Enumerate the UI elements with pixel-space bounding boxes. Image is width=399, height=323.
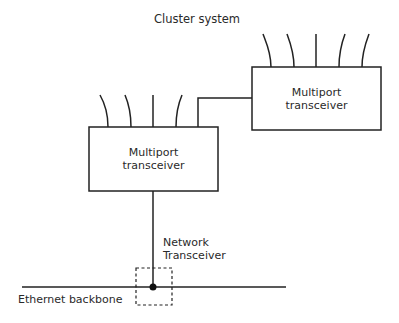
node-label-line1: Multiport <box>252 86 381 99</box>
node-label-line2: Transceiver <box>163 249 226 262</box>
ethernet-backbone-label: Ethernet backbone <box>18 293 122 306</box>
network-transceiver-label: Network Transceiver <box>163 236 226 262</box>
node-label-line2: transceiver <box>89 159 218 172</box>
node-label-line2: transceiver <box>252 99 381 112</box>
diagram-title: Cluster system <box>147 13 247 26</box>
antenna-line <box>100 95 108 127</box>
antenna-line <box>362 34 369 67</box>
node-label-line1: Multiport <box>89 146 218 159</box>
antenna-line <box>263 34 271 67</box>
antenna-line <box>176 95 182 127</box>
antenna-line <box>287 34 294 67</box>
multiport-transceiver-left-label: Multiport transceiver <box>89 146 218 172</box>
antenna-line <box>339 34 345 67</box>
node-label-line1: Network <box>163 236 226 249</box>
antenna-line <box>125 95 131 127</box>
tap-junction-dot <box>150 284 157 291</box>
inter-transceiver-link <box>198 98 252 127</box>
multiport-transceiver-right-label: Multiport transceiver <box>252 86 381 112</box>
